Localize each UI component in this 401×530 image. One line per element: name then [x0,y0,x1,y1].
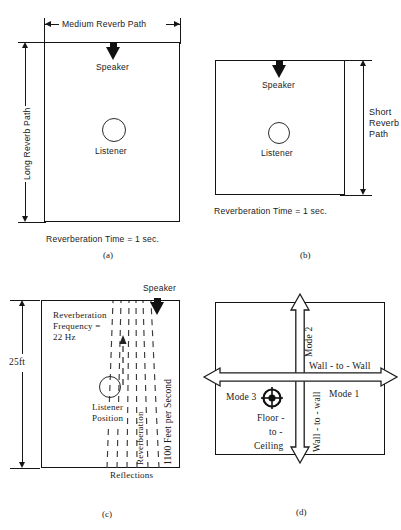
panel-c-note-line1: Reverberation [53,310,107,321]
panel-a-listener-label: Listener [95,146,127,157]
panel-d-mode3-axis-line1: Floor - [257,413,285,425]
panel-b-right-dim-tick-top [340,60,372,61]
panel-d-mode2-axis-label: Wall - to - wall [312,392,324,452]
panel-b-caption: (b) [300,250,311,260]
panel-d-mode2-label: Mode 2 [304,327,316,358]
panel-b-speaker-icon [272,65,286,78]
panel-b-right-dim-tick-bottom [340,195,372,196]
panel-c-speed-label: 1100 Feet per Second [163,379,175,465]
panel-d-mode3-label: Mode 3 [226,392,257,404]
panel-a-left-dim-tick-top [18,42,46,43]
panel-a-bottom-note: Reverberation Time = 1 sec. [46,234,159,245]
panel-a-caption: (a) [103,250,113,260]
panel-c-caption: (c) [102,509,112,519]
panel-a-listener-icon [102,118,126,142]
panel-c-listener-label-line2: Position [92,413,123,424]
panel-a-speaker-label: Speaker [96,62,129,73]
panel-b-listener-label: Listener [261,148,293,159]
panel-c-reverberation-label: Reverberation [135,411,146,465]
panel-b-right-dimension-label-line3: Path [369,129,388,140]
panel-a-left-dimension-label: Long Reverb Path [22,106,33,182]
panel-a: Medium Reverb Path Long Reverb Path Spea… [0,0,200,265]
panel-c-note-line2: Frequency = [53,321,101,332]
panel-b-right-dimension-label-line2: Reverb [369,118,399,129]
panel-a-top-dim-arrow-right [174,21,180,27]
panel-c-listener-label-line1: Listener [92,402,123,413]
panel-b-right-dim-arrow-up [360,60,366,66]
panel-c-speaker-label: Speaker [143,283,176,294]
panel-a-top-dim-arrow-left [45,21,51,27]
panel-c-speaker-icon [150,302,164,315]
panel-b-speaker-label: Speaker [262,80,295,91]
panel-d-mode3-axis-line3: Ceiling [254,441,283,453]
panel-a-top-dimension-label: Medium Reverb Path [62,19,146,30]
panel-b-right-dim-arrow-down [360,189,366,195]
panel-b-right-dimension-label-line1: Short [369,107,392,118]
panel-c-note-line3: 22 Hz [53,332,76,343]
panel-c-listener-icon [99,376,121,398]
panel-d-mode1-label: Mode 1 [329,389,360,401]
panel-d-caption: (d) [296,507,307,517]
panel-b-bottom-note: Reverberation Time = 1 sec. [214,206,327,217]
panel-c-reflections-label: Reflections [110,470,153,481]
panel-b: Speaker Listener Short Reverb Path Rever… [200,0,401,265]
panel-b-right-dim-line [363,62,364,193]
panel-c: 25ft Speaker Reverberation Frequency = 2… [0,265,200,530]
panel-d-mode1-axis-label: Wall - to - Wall [309,361,371,373]
panel-a-speaker-icon [106,47,120,60]
panel-a-top-dim-tick-right [180,18,181,44]
panel-b-listener-icon [268,122,290,144]
panel-c-direction-arrow [119,335,126,385]
panel-a-left-dim-tick-bottom [18,222,46,223]
panel-d-mode3-axis-line2: to - [269,427,283,439]
panel-d: Mode 2 Wall - to - Wall Mode 1 Wall - to… [200,265,401,530]
